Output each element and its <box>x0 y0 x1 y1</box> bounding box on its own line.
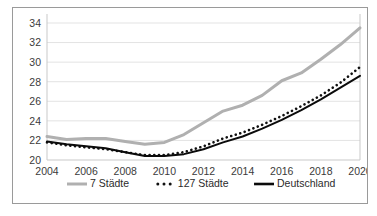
x-axis-tick-labels: 200420062008201020122014201620182020 <box>35 165 367 177</box>
legend-item-deutschland[interactable]: Deutschland <box>254 177 336 189</box>
legend-item-7-st-dte[interactable]: 7 Städte <box>67 177 129 189</box>
y-tick-label: 32 <box>29 36 41 48</box>
legend-dot-marker <box>169 183 172 186</box>
x-tick-label: 2006 <box>74 165 98 177</box>
legend-dot-marker <box>156 183 159 186</box>
legend-label: Deutschland <box>277 177 336 189</box>
y-tick-label: 28 <box>29 76 41 88</box>
chart-legend: 7 Städte127 StädteDeutschland <box>67 177 336 189</box>
y-tick-label: 30 <box>29 56 41 68</box>
chart-figure: 2022242628303234 20042006200820102012201… <box>0 0 377 216</box>
y-tick-label: 34 <box>29 17 41 29</box>
line-chart: 2022242628303234 20042006200820102012201… <box>13 8 367 203</box>
y-tick-label: 26 <box>29 95 41 107</box>
series-line-deutschland <box>47 76 360 156</box>
chart-frame: 2022242628303234 20042006200820102012201… <box>12 7 368 204</box>
y-tick-label: 22 <box>29 134 41 146</box>
data-series-group <box>47 28 360 156</box>
x-tick-label: 2014 <box>231 165 255 177</box>
legend-label: 127 Städte <box>178 177 229 189</box>
y-tick-label: 24 <box>29 115 41 127</box>
series-line-127-st-dte <box>47 67 360 155</box>
x-tick-label: 2010 <box>153 165 177 177</box>
y-tick-label: 20 <box>29 154 41 166</box>
x-tick-label: 2016 <box>270 165 294 177</box>
x-tick-label: 2020 <box>348 165 367 177</box>
x-tick-label: 2018 <box>309 165 333 177</box>
y-axis-tick-labels: 2022242628303234 <box>29 17 41 166</box>
legend-item-127-st-dte[interactable]: 127 Städte <box>156 177 228 189</box>
legend-dot-marker <box>163 183 166 186</box>
x-tick-label: 2012 <box>192 165 216 177</box>
legend-label: 7 Städte <box>90 177 129 189</box>
series-line-7-st-dte <box>47 28 360 144</box>
x-tick-label: 2004 <box>35 165 59 177</box>
x-tick-label: 2008 <box>114 165 138 177</box>
